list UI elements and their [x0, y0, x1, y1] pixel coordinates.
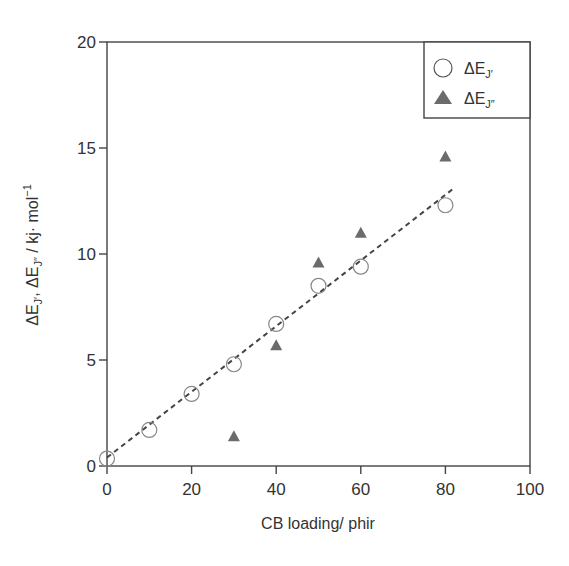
triangle-marker — [228, 430, 240, 441]
circle-marker — [353, 259, 368, 274]
y-tick-label: 15 — [77, 139, 96, 158]
x-tick-label: 0 — [102, 480, 111, 499]
x-tick-label: 100 — [516, 480, 544, 499]
y-tick-label: 0 — [87, 457, 96, 476]
data-points — [100, 150, 453, 466]
x-tick-label: 20 — [182, 480, 201, 499]
x-tick-label: 60 — [351, 480, 370, 499]
x-tick-label: 80 — [436, 480, 455, 499]
triangle-marker — [313, 256, 325, 267]
x-axis-label: CB loading/ phir — [261, 515, 376, 532]
y-axis: 05101520 — [77, 33, 107, 476]
fit-line-path — [107, 188, 454, 457]
legend: ΔEJ′ΔEJ″ — [424, 42, 530, 118]
circle-marker — [269, 316, 284, 331]
triangle-marker — [439, 150, 451, 161]
circle-marker — [311, 278, 326, 293]
fit-line — [107, 188, 454, 457]
y-axis-label: ΔEJ′, ΔEJ″ / kj· mol−1 — [21, 184, 44, 326]
circle-marker — [438, 198, 453, 213]
x-tick-label: 40 — [267, 480, 286, 499]
y-tick-label: 5 — [87, 351, 96, 370]
triangle-marker — [355, 227, 367, 238]
circle-marker — [184, 386, 199, 401]
y-tick-label: 20 — [77, 33, 96, 52]
y-tick-label: 10 — [77, 245, 96, 264]
svg-text:ΔEJ′, ΔEJ″ / kj· mol−1: ΔEJ′, ΔEJ″ / kj· mol−1 — [21, 184, 44, 326]
triangle-marker — [270, 339, 282, 350]
x-axis: 020406080100 — [102, 466, 544, 499]
scatter-chart: 020406080100 05101520 ΔEJ′ΔEJ″ CB loadin… — [0, 0, 569, 566]
